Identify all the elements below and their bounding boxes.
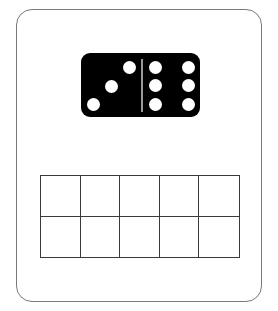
ten-frame-cell[interactable] <box>160 176 200 217</box>
domino-pip <box>149 79 162 92</box>
domino-divider <box>141 59 143 112</box>
ten-frame-cell[interactable] <box>81 176 121 217</box>
ten-frame-cell[interactable] <box>120 217 160 258</box>
ten-frame <box>40 175 240 258</box>
ten-frame-cell[interactable] <box>120 176 160 217</box>
ten-frame-cell[interactable] <box>41 176 81 217</box>
ten-frame-cell[interactable] <box>81 217 121 258</box>
ten-frame-cell[interactable] <box>199 176 239 217</box>
domino-pip <box>149 61 162 74</box>
domino-3-6 <box>81 53 200 117</box>
domino-pip <box>182 79 195 92</box>
ten-frame-cell[interactable] <box>160 217 200 258</box>
ten-frame-cell[interactable] <box>41 217 81 258</box>
domino-pip <box>105 80 118 93</box>
domino-pip <box>123 61 136 74</box>
domino-pip <box>182 61 195 74</box>
domino-pip <box>149 98 162 111</box>
domino-pip <box>87 98 100 111</box>
domino-pip <box>182 98 195 111</box>
ten-frame-cell[interactable] <box>199 217 239 258</box>
